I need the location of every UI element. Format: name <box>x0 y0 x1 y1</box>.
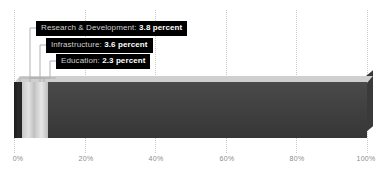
bar-segment-other[interactable] <box>48 82 367 138</box>
tick-label-20: 20% <box>79 155 94 162</box>
callout-infrastructure[interactable]: Infrastructure: 3.6 percent <box>46 38 153 53</box>
stacked-bar <box>14 82 367 138</box>
leader-line-infrastructure <box>30 45 46 78</box>
callout-research-text: Research & Development: <box>41 23 139 32</box>
leader-line-research <box>30 28 44 82</box>
callout-education[interactable]: Education: 2.3 percent <box>56 54 150 69</box>
callout-education-value: 2.3 percent <box>102 56 145 65</box>
bar-segment-research-and-development[interactable] <box>35 82 48 138</box>
tick-label-40: 40% <box>149 155 164 162</box>
chart-canvas: 0% 20% 40% 60% 80% 100% <box>0 0 381 173</box>
callout-education-text: Education: <box>61 56 102 65</box>
tick-label-100: 100% <box>356 155 375 162</box>
tick-label-80: 80% <box>290 155 305 162</box>
tick-label-60: 60% <box>220 155 235 162</box>
bar-segment-infrastructure[interactable] <box>22 82 35 138</box>
plot-area: 0% 20% 40% 60% 80% 100% <box>0 0 381 173</box>
callout-infrastructure-value: 3.6 percent <box>104 40 147 49</box>
callout-research-value: 3.8 percent <box>139 23 182 32</box>
callout-infrastructure-text: Infrastructure: <box>51 40 104 49</box>
bar-front-face <box>14 82 367 138</box>
bar-segment-education[interactable] <box>14 82 22 138</box>
callout-research-and-development[interactable]: Research & Development: 3.8 percent <box>36 21 187 36</box>
tick-label-0: 0% <box>13 155 24 162</box>
